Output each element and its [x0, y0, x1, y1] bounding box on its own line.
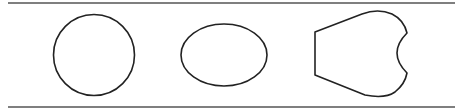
circle-shape [54, 15, 135, 96]
shapes-diagram [0, 0, 474, 110]
ellipse-shape [181, 24, 267, 86]
diagram-canvas [0, 0, 474, 110]
notched-shape [315, 11, 407, 96]
